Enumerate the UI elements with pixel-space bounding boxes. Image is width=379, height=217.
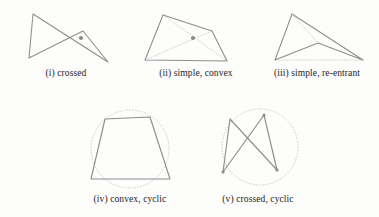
panel-iv-outline (91, 117, 170, 179)
panel-ii-simple-convex (145, 15, 227, 61)
panel-iii-outline (275, 14, 363, 60)
panel-i-outline (29, 14, 108, 62)
panel-iv-convex-cyclic (91, 110, 170, 188)
panel-ii-outline (145, 15, 227, 61)
caption-panel-iv: (iv) convex, cyclic (66, 194, 194, 204)
quadrilateral-types-figure: (i) crossed (ii) simple, convex (iii) si… (0, 0, 379, 217)
panel-i-crossed (29, 14, 108, 62)
panel-v-vertex-dot-2 (275, 168, 278, 171)
panel-v-vertex-dot-1 (221, 170, 224, 173)
panel-v-outline (223, 115, 277, 172)
panel-ii-center-dot (191, 36, 195, 40)
caption-panel-i: (i) crossed (0, 68, 132, 78)
panel-v-crossed-cyclic (221, 109, 298, 185)
panel-iii-simple-re-entrant (275, 14, 363, 60)
shapes-canvas (0, 0, 379, 217)
caption-panel-ii: (ii) simple, convex (132, 68, 260, 78)
panel-v-vertex-dot-3 (263, 114, 266, 117)
panel-i-crossing-dot (79, 36, 83, 40)
panel-iv-circumcircle (91, 110, 169, 188)
caption-panel-iii: (iii) simple, re-entrant (255, 68, 379, 78)
caption-panel-v: (v) crossed, cyclic (192, 194, 324, 204)
